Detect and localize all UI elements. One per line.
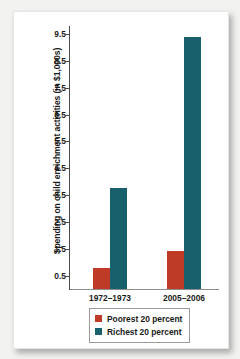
y-axis-tick-label: 7.5: [40, 83, 66, 93]
y-axis-tick-label: 6.5: [40, 110, 66, 120]
bar-richest: [110, 188, 127, 289]
legend-item-poorest: Poorest 20 percent: [95, 312, 182, 325]
bars-area: [70, 26, 219, 289]
figure-root: Spending on child enrichment activities …: [0, 0, 240, 359]
y-axis-tick-label: 4.5: [40, 163, 66, 173]
bar-group: [167, 26, 201, 289]
x-axis-line: [69, 289, 219, 290]
chart-card: Spending on child enrichment activities …: [13, 11, 229, 349]
bar-poorest: [167, 251, 184, 289]
legend-item-richest: Richest 20 percent: [95, 325, 182, 338]
legend-label-poorest: Poorest 20 percent: [107, 314, 182, 324]
y-axis-tick-label: 8.5: [40, 56, 66, 66]
plot-area: Spending on child enrichment activities …: [14, 12, 230, 350]
chart-legend: Poorest 20 percent Richest 20 percent: [89, 308, 190, 343]
bar-group: [93, 26, 127, 289]
legend-swatch-poorest: [95, 315, 102, 322]
y-axis-tick-label: 9.5: [40, 29, 66, 39]
y-axis-tick-label: 1.5: [40, 244, 66, 254]
legend-label-richest: Richest 20 percent: [107, 327, 181, 337]
y-axis-tick-labels: 0.51.52.53.54.55.56.57.58.59.5: [40, 28, 66, 286]
y-axis-tick-label: 3.5: [40, 190, 66, 200]
y-axis-tick-label: 0.5: [40, 271, 66, 281]
bar-poorest: [93, 268, 110, 289]
bar-richest: [184, 37, 201, 289]
legend-swatch-richest: [95, 328, 102, 335]
x-axis-category-label: 1972–1973: [89, 293, 131, 303]
x-axis-category-label: 2005–2006: [163, 293, 205, 303]
y-axis-tick-label: 2.5: [40, 217, 66, 227]
x-axis-category-labels: 1972–19732005–2006: [70, 293, 219, 309]
y-axis-tick-label: 5.5: [40, 136, 66, 146]
